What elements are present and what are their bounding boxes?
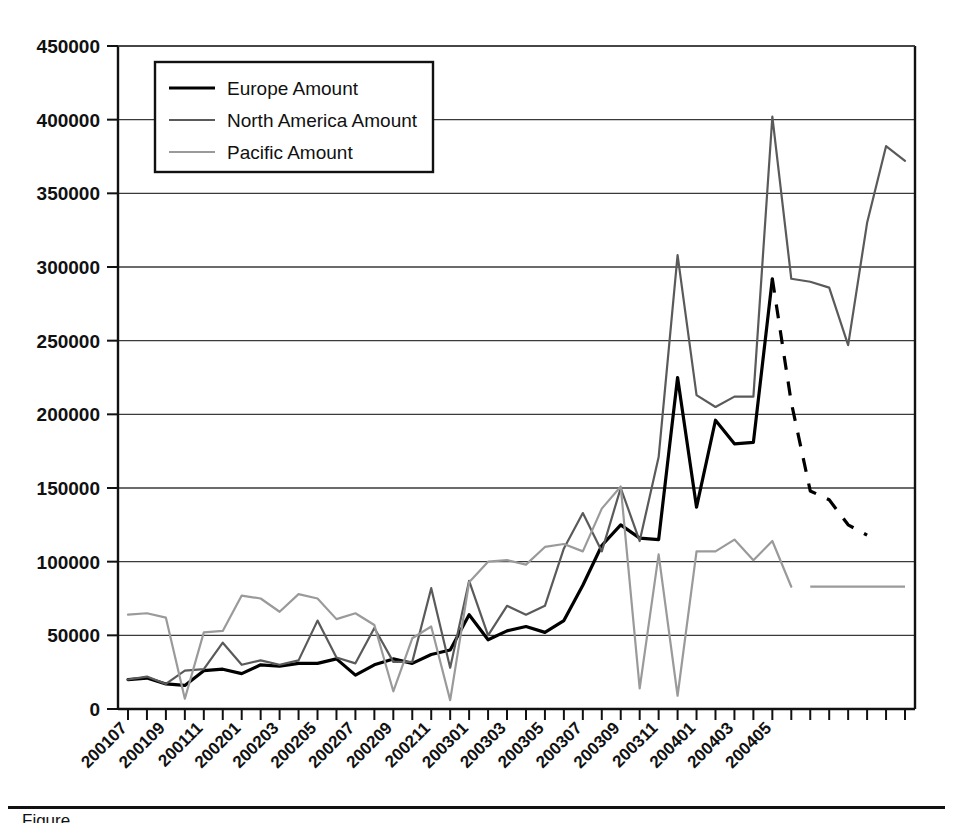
- x-tick-labels: 2001072001092001112002012002032002052002…: [77, 718, 775, 772]
- legend-label-3: Pacific Amount: [227, 142, 353, 163]
- data-series: [128, 117, 905, 700]
- line-chart: 0500001000001500002000002500003000003500…: [0, 0, 953, 823]
- y-tick-label: 0: [89, 699, 100, 720]
- y-tick-label: 400000: [37, 110, 100, 131]
- y-tick-label: 150000: [37, 478, 100, 499]
- y-tick-label: 200000: [37, 404, 100, 425]
- y-tick-label: 350000: [37, 183, 100, 204]
- footer-caption: Figure: [22, 812, 582, 823]
- footer-divider: [8, 806, 945, 809]
- y-tick-label: 100000: [37, 552, 100, 573]
- legend-label-1: Europe Amount: [227, 78, 359, 99]
- y-tick-label: 250000: [37, 331, 100, 352]
- chart-legend: Europe AmountNorth America AmountPacific…: [155, 62, 433, 172]
- y-tick-label: 50000: [47, 625, 100, 646]
- series-line: [128, 487, 791, 701]
- y-tick-labels: 0500001000001500002000002500003000003500…: [37, 36, 100, 720]
- x-axis: [118, 709, 915, 720]
- chart-container: 0500001000001500002000002500003000003500…: [0, 0, 953, 823]
- series-line: [128, 279, 772, 686]
- y-tick-label: 450000: [37, 36, 100, 57]
- y-axis: [107, 46, 118, 709]
- legend-label-2: North America Amount: [227, 110, 418, 131]
- series-line: [128, 117, 905, 684]
- y-tick-label: 300000: [37, 257, 100, 278]
